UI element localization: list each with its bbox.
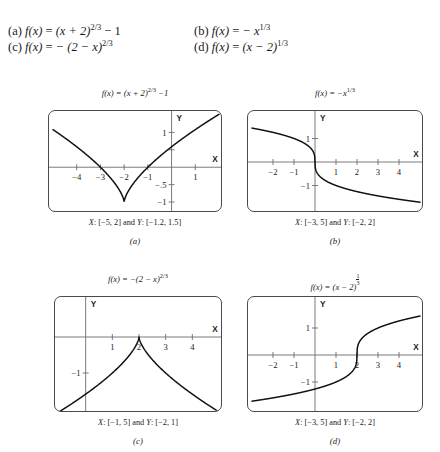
problem-exponent-a: 2/3 [90,23,101,32]
panel-caption-c: X: [−1, 5] and Y: [−2, 1] [40,418,236,427]
caption-xrange-c: : [−1, 5] and [103,418,146,427]
svg-text:1: 1 [162,128,166,138]
svg-text:−2: −2 [120,172,129,182]
svg-text:−4: −4 [72,172,82,182]
caption-xrange-a: : [−5, 2] and [94,218,137,227]
svg-text:X: X [413,343,419,352]
problem-tag-b: (b) [194,24,209,38]
problem-tail-a: − 1 [104,24,120,38]
caption-xrange-d: : [−3, 5] and [300,418,343,427]
problem-function-d: f(x) [212,40,229,54]
svg-text:−1: −1 [157,197,166,207]
svg-text:−2: −2 [268,167,277,177]
graph-box-b: −2−112341−1XY [247,110,423,212]
svg-text:1: 1 [334,167,338,177]
problem-item-d: (d) f(x) = (x − 2)1/3 [194,40,288,55]
svg-text:X: X [413,150,419,159]
panel-title-b: f(x) = −x1/3 [247,88,423,98]
problem-exponent-c: 2/3 [102,39,113,48]
graph-box-a: −4−3−2−111−.5−1XY [48,110,222,212]
problem-item-a: (a) f(x) = (x + 2)2/3 − 1 [8,24,121,39]
panel-title-suffix-a: −1 [158,88,168,98]
svg-text:4: 4 [190,342,195,352]
problem-exponent-d: 1/3 [277,39,288,48]
graph-svg-c: 1234−1XY [55,297,222,412]
svg-text:1: 1 [110,342,114,352]
graph-svg-d: −2−112341−1XY [248,297,423,412]
caption-xrange-b: : [−3, 5] and [300,218,343,227]
svg-text:−1: −1 [301,181,310,191]
panel-title-exponent-a: 2/3 [148,86,156,93]
svg-text:1: 1 [306,134,310,144]
caption-yrange-a: : [−1.2, 1.5] [142,218,181,227]
panel-title-exponent-b: 1/3 [347,86,355,93]
svg-text:−3: −3 [96,172,105,182]
problem-function-c: f(x) [25,40,42,54]
panel-title-prefix-a: f(x) = (x + 2) [102,88,148,98]
panel-letter-b: (b) [247,236,423,246]
svg-text:−1: −1 [301,377,310,387]
panel-caption-b: X: [−3, 5] and Y: [−2, 2] [233,218,437,227]
svg-text:X: X [212,155,218,164]
panel-caption-d: X: [−3, 5] and Y: [−2, 2] [233,418,437,427]
caption-yrange-c: : [−2, 1] [151,418,178,427]
problem-equals-b: = [232,24,239,38]
problem-item-c: (c) f(x) = − (2 − x)2/3 [8,40,113,55]
panel-title-exponent-d: 13 [356,273,359,286]
panel-title-d: f(x) = (x − 2)13 [247,274,423,292]
panel-title-c: f(x) = −(2 − x)2/3 [54,274,222,284]
graph-svg-b: −2−112341−1XY [248,111,423,212]
problem-tag-a: (a) [8,24,22,38]
problem-tag-c: (c) [8,40,22,54]
svg-text:1: 1 [193,172,197,182]
problem-function-a: f(x) [25,24,42,38]
caption-yrange-b: : [−2, 2] [348,218,375,227]
panel-title-exponent-den-d: 3 [356,279,359,286]
panel-title-prefix-c: f(x) = −(2 − x) [108,274,160,284]
svg-text:−1: −1 [289,360,298,370]
svg-text:Y: Y [91,300,97,309]
svg-text:Y: Y [177,114,183,123]
panel-title-prefix-d: f(x) = (x − 2) [311,282,357,292]
svg-text:X: X [212,325,218,334]
svg-text:3: 3 [376,167,380,177]
svg-text:1: 1 [306,323,310,333]
problem-item-b: (b) f(x) = − x1/3 [194,24,270,39]
problem-body-b: − x [242,24,259,38]
problem-equals-d: = [232,40,239,54]
panel-title-exponent-c: 2/3 [160,272,168,279]
svg-text:3: 3 [376,360,380,370]
graph-svg-a: −4−3−2−111−.5−1XY [49,111,222,212]
problem-body-c: − (2 − x) [56,40,102,54]
svg-text:−1: −1 [289,167,298,177]
svg-text:2: 2 [355,167,359,177]
svg-text:Y: Y [320,114,326,123]
problem-equals-a: = [45,24,52,38]
problem-function-b: f(x) [212,24,229,38]
problem-body-a: (x + 2) [56,24,91,38]
panel-title-prefix-b: f(x) = −x [315,88,347,98]
panel-caption-a: X: [−5, 2] and Y: [−1.2, 1.5] [34,218,236,227]
svg-text:1: 1 [334,360,338,370]
graph-box-d: −2−112341−1XY [247,296,423,412]
panel-title-a: f(x) = (x + 2)2/3 −1 [48,88,222,98]
problem-statement-list: (a) f(x) = (x + 2)2/3 − 1 (b) f(x) = − x… [0,0,440,64]
svg-text:−1: −1 [72,368,81,378]
panel-letter-d: (d) [247,436,423,446]
svg-text:3: 3 [164,342,168,352]
svg-text:4: 4 [397,167,402,177]
svg-text:Y: Y [320,300,326,309]
caption-yrange-d: : [−2, 2] [348,418,375,427]
problem-tag-d: (d) [194,40,209,54]
svg-text:−2: −2 [268,360,277,370]
svg-text:4: 4 [397,360,402,370]
graph-box-c: 1234−1XY [54,296,222,412]
panel-letter-a: (a) [48,236,222,246]
svg-text:−.5: −.5 [155,180,166,190]
problem-equals-c: = [45,40,52,54]
svg-text:−1: −1 [143,172,152,182]
problem-body-d: (x − 2) [242,40,277,54]
panel-letter-c: (c) [54,436,222,446]
problem-exponent-b: 1/3 [259,23,270,32]
